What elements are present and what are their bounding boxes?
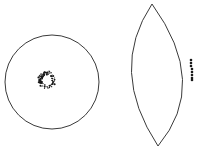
speck bbox=[50, 84, 51, 85]
speck bbox=[54, 77, 55, 78]
edge-dot bbox=[191, 74, 194, 77]
speck bbox=[46, 72, 47, 73]
speck bbox=[41, 78, 42, 79]
speck bbox=[54, 78, 55, 79]
speck bbox=[47, 74, 48, 75]
lens-edge-dots bbox=[190, 59, 194, 82]
speck bbox=[54, 80, 55, 81]
speck bbox=[38, 81, 40, 83]
speck bbox=[42, 75, 43, 76]
diagram-canvas bbox=[0, 0, 197, 152]
speck bbox=[44, 84, 45, 85]
speck bbox=[52, 83, 54, 85]
speck bbox=[52, 80, 54, 82]
speck bbox=[52, 74, 53, 75]
speck bbox=[44, 72, 45, 73]
speck bbox=[48, 72, 49, 73]
edge-dot bbox=[190, 59, 193, 62]
speck bbox=[44, 85, 46, 87]
edge-dot bbox=[191, 79, 194, 82]
speck bbox=[52, 75, 54, 77]
speck bbox=[54, 84, 55, 85]
speck bbox=[52, 81, 54, 83]
edge-dot bbox=[190, 65, 193, 68]
speck bbox=[48, 71, 49, 72]
speck bbox=[39, 85, 41, 87]
edge-dot bbox=[190, 62, 193, 65]
edge-dot bbox=[191, 68, 194, 71]
speck bbox=[50, 72, 52, 74]
speck bbox=[42, 76, 43, 77]
speck bbox=[44, 87, 45, 88]
speck bbox=[41, 86, 42, 87]
speck bbox=[40, 76, 41, 77]
speck bbox=[39, 76, 40, 77]
speck bbox=[40, 82, 41, 83]
speck bbox=[47, 87, 48, 88]
speck bbox=[41, 79, 42, 80]
circle-view bbox=[5, 35, 99, 129]
lens-view bbox=[131, 4, 193, 146]
speck bbox=[49, 87, 50, 88]
speck bbox=[40, 74, 41, 75]
edge-dot bbox=[191, 71, 194, 74]
outer-circle bbox=[5, 35, 99, 129]
speck bbox=[51, 78, 52, 79]
speck bbox=[51, 75, 53, 77]
speck bbox=[39, 79, 41, 81]
lens-shape bbox=[131, 4, 182, 146]
speck bbox=[51, 86, 52, 87]
speckled-ring-cluster bbox=[37, 71, 55, 89]
